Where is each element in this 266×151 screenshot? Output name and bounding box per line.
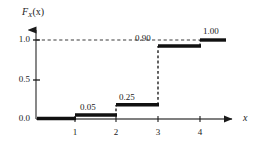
cdf-figure: FX(x) x 1.0 0.5 0.0 1 2 3 4 0.05 0.25 0.… [0,0,266,151]
y-axis-title-argument: (x) [32,6,44,17]
x-axis-title: x [243,113,247,123]
plot-canvas [0,0,266,151]
step-value-label-1.00: 1.00 [203,27,219,36]
x-tick-label-3: 3 [148,128,168,137]
step-value-label-0.90: 0.90 [135,34,151,43]
y-axis-title: FX(x) [22,7,44,19]
y-tick-label-1.0: 1.0 [6,35,30,44]
step-value-label-0.25: 0.25 [119,93,135,102]
x-tick-label-2: 2 [106,128,126,137]
y-tick-label-0.5: 0.5 [6,75,30,84]
y-tick-label-0.0: 0.0 [6,114,30,123]
step-value-label-0.05: 0.05 [80,103,96,112]
x-tick-label-4: 4 [190,128,210,137]
x-tick-label-1: 1 [65,128,85,137]
